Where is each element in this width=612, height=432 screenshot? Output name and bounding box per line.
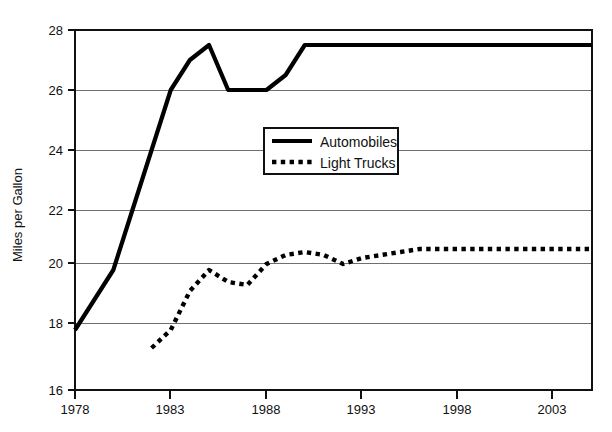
fuel-economy-line-chart: 28 26 24 22 20 18 16 Miles per Gallon 19… [0,0,612,432]
x-tick-label-1998: 1998 [443,402,472,417]
y-tick-label-24: 24 [49,143,63,158]
x-tick-label-1978: 1978 [61,402,90,417]
y-tick-label-20: 20 [49,256,63,271]
y-tick-label-18: 18 [49,316,63,331]
chart-legend: Automobiles Light Trucks [264,128,398,174]
chart-container: 28 26 24 22 20 18 16 Miles per Gallon 19… [0,0,612,432]
chart-background [0,0,612,432]
y-tick-label-16: 16 [49,383,63,398]
x-tick-label-1983: 1983 [156,402,185,417]
y-tick-label-26: 26 [49,83,63,98]
x-tick-label-1988: 1988 [252,402,281,417]
x-tick-label-2003: 2003 [538,402,567,417]
y-tick-label-22: 22 [49,203,63,218]
y-tick-label-28: 28 [49,23,63,38]
x-tick-label-1993: 1993 [347,402,376,417]
legend-label-light-trucks: Light Trucks [320,155,395,171]
y-axis-title: Miles per Gallon [10,168,25,262]
legend-label-automobiles: Automobiles [320,134,397,150]
